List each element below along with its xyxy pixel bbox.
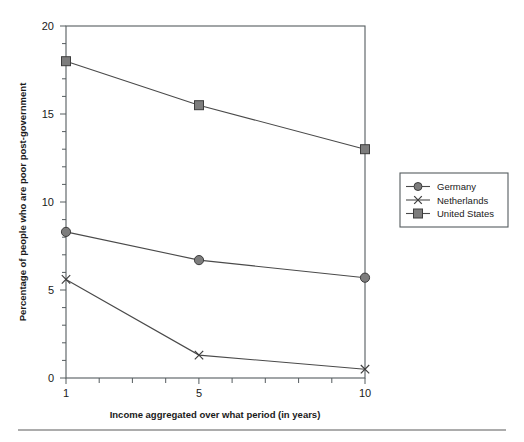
series-line-netherlands (66, 279, 365, 369)
series-united-states (62, 57, 370, 154)
data-point-marker (360, 273, 369, 282)
legend-label: Germany (437, 181, 476, 192)
series-line-united-states (66, 61, 365, 149)
legend-label: Netherlands (437, 195, 488, 206)
y-tick-label: 5 (48, 284, 54, 296)
data-point-marker (62, 57, 71, 66)
x-tick-label: 10 (359, 387, 371, 399)
data-point-marker (61, 227, 70, 236)
x-tick-label: 5 (196, 387, 202, 399)
x-tick-label: 1 (63, 387, 69, 399)
series-germany (61, 227, 369, 282)
y-tick-label: 20 (42, 20, 54, 32)
y-tick-label: 10 (42, 196, 54, 208)
x-axis-title: Income aggregated over what period (in y… (110, 409, 321, 420)
legend-entry-united-states[interactable]: United States (406, 208, 494, 219)
y-axis-title: Percentage of people who are poor post-g… (17, 82, 28, 321)
y-tick-label: 15 (42, 108, 54, 120)
data-point-marker (194, 256, 203, 265)
legend-circle-marker-icon (414, 183, 422, 191)
data-point-marker (195, 101, 204, 110)
line-chart: 20 15 10 5 0 1 5 10 Percentage of people (0, 0, 524, 442)
legend-square-marker-icon (414, 209, 423, 218)
x-axis-ticks (66, 378, 365, 384)
chart-figure: 20 15 10 5 0 1 5 10 Percentage of people (0, 0, 524, 442)
chart-legend: Germany Netherlands United States (400, 173, 508, 227)
legend-label: United States (437, 208, 494, 219)
legend-entry-germany[interactable]: Germany (406, 181, 476, 192)
x-axis-tick-labels: 1 5 10 (63, 387, 371, 399)
plot-frame (66, 26, 365, 378)
data-point-marker (361, 145, 370, 154)
series-netherlands (62, 275, 369, 373)
y-axis-tick-labels: 20 15 10 5 0 (42, 20, 54, 384)
y-tick-label: 0 (48, 372, 54, 384)
series-line-germany (66, 232, 365, 278)
